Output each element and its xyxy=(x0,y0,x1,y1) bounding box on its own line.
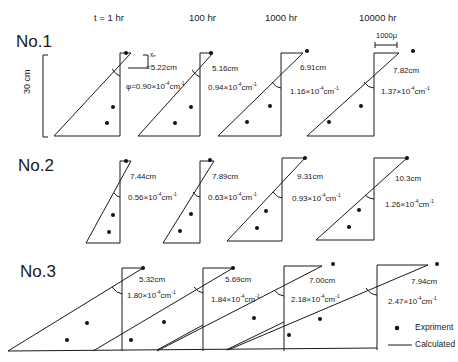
horizontal-scale-bar xyxy=(375,42,397,48)
vertical-scale-bar xyxy=(43,55,48,137)
row1-panel4-phi: 1.37×10-4cm-1 xyxy=(381,85,430,96)
row2-panel3-phi: 0.93×10-4cm-1 xyxy=(292,192,341,203)
row3-panel2-xe: 5.69cm xyxy=(225,275,251,284)
row2-panel2-shape xyxy=(163,161,214,243)
row3-baseline xyxy=(8,348,377,351)
row1-panel1-phi: φ=0.90×10-4cm-1 xyxy=(126,80,185,91)
row3-panel4-xe: 7.94cm xyxy=(411,277,437,286)
row2-panel1-xe: 7.44cm xyxy=(130,172,156,181)
row3-panel3-phi: 2.18×10-4cm-1 xyxy=(291,293,340,304)
row3-panel1-xe: 5.32cm xyxy=(139,275,165,284)
row2-panel2-phi: 0.63×10-4cm-1 xyxy=(208,191,257,202)
row2-panel1-phi: 0.56×10-4cm-1 xyxy=(128,191,177,202)
vertical-scale-label: 30 cm xyxy=(22,69,32,94)
row1-panel1-xe-symbol: xₑ xyxy=(150,51,156,58)
row1-panel2-phi: 0.94×10-4cm-1 xyxy=(208,81,257,92)
row3-panel1-shape xyxy=(8,268,143,351)
row3-panel2-phi: 1.84×10-4cm-1 xyxy=(211,293,260,304)
row2-panel4-phi: 1.26×10-4cm-1 xyxy=(385,198,434,209)
legend-experiment-dot xyxy=(395,326,399,330)
horizontal-scale-label: 1000μ xyxy=(376,31,397,40)
row3-panel1-phi: 1.80×10-4cm-1 xyxy=(127,289,176,300)
row2-panel4-xe: 10.3cm xyxy=(395,174,421,183)
row1-panel1-xe: =5.22cm xyxy=(146,63,177,72)
row3-panel3-xe: 7.00cm xyxy=(309,276,335,285)
row1-panel1-shape xyxy=(54,53,148,136)
row2-panel2-xe: 7.89cm xyxy=(212,172,238,181)
diagram-canvas xyxy=(0,0,458,362)
row3-panel4-phi: 2.47×10-4cm-1 xyxy=(388,295,437,306)
row1-panel2-xe: 5.16cm xyxy=(212,64,238,73)
row1-panel3-phi: 1.16×10-4cm-1 xyxy=(290,85,339,96)
legend-calculated-label: Calculated xyxy=(415,339,455,349)
row1-panel4-xe: 7.82cm xyxy=(393,66,419,75)
row2-panel3-xe: 9.31cm xyxy=(297,172,323,181)
row1-panel3-xe: 6.91cm xyxy=(300,63,326,72)
legend-experiment-label: Expriment xyxy=(415,322,453,332)
xe-value: 5.22cm xyxy=(151,63,177,72)
